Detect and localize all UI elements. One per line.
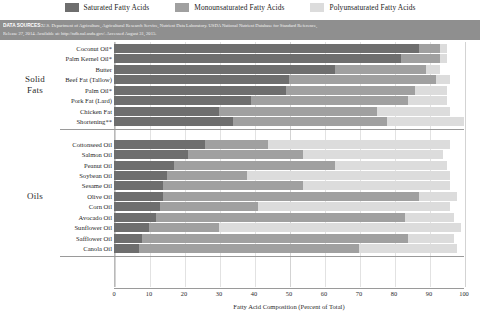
bar-segment-saturated[interactable] (114, 213, 156, 222)
stacked-bar-chart: Coconut Oil*Palm Kernel Oil*ButterBeef F… (0, 42, 480, 315)
bar-segment-saturated[interactable] (114, 181, 163, 190)
stacked-bar[interactable] (114, 65, 464, 74)
stacked-bar[interactable] (114, 86, 464, 95)
stacked-bar[interactable] (114, 150, 464, 159)
bar-segment-polyunsaturated[interactable] (415, 86, 447, 95)
bar-segment-polyunsaturated[interactable] (359, 244, 457, 253)
bar-segment-polyunsaturated[interactable] (408, 96, 447, 105)
bar-segment-monounsaturated[interactable] (289, 75, 436, 84)
bar-row-label: Canola Oil (83, 244, 112, 253)
bar-segment-monounsaturated[interactable] (149, 223, 219, 232)
data-sources-tag: DATA SOURCES: (3, 23, 42, 28)
stacked-bar[interactable] (114, 202, 464, 211)
group-separator (60, 129, 464, 130)
bar-segment-monounsaturated[interactable] (419, 44, 440, 53)
bar-segment-saturated[interactable] (114, 234, 142, 243)
bar-segment-monounsaturated[interactable] (251, 96, 409, 105)
stacked-bar[interactable] (114, 171, 464, 180)
bar-row-label: Palm Kernel Oil* (65, 54, 112, 63)
bar-segment-monounsaturated[interactable] (139, 244, 360, 253)
bar-segment-polyunsaturated[interactable] (303, 150, 443, 159)
bar-segment-saturated[interactable] (114, 117, 233, 126)
group-separator (60, 256, 464, 257)
stacked-bar[interactable] (114, 75, 464, 84)
bar-segment-monounsaturated[interactable] (205, 140, 268, 149)
bar-segment-monounsaturated[interactable] (142, 234, 408, 243)
bar-segment-monounsaturated[interactable] (167, 171, 248, 180)
bar-segment-saturated[interactable] (114, 171, 167, 180)
bar-segment-saturated[interactable] (114, 202, 160, 211)
bar-segment-polyunsaturated[interactable] (377, 107, 451, 116)
x-tick-80: 80 (391, 290, 397, 297)
stacked-bar[interactable] (114, 140, 464, 149)
bar-segment-monounsaturated[interactable] (401, 54, 440, 63)
bar-segment-saturated[interactable] (114, 44, 419, 53)
bar-segment-polyunsaturated[interactable] (258, 202, 451, 211)
bar-segment-polyunsaturated[interactable] (303, 181, 450, 190)
bar-segment-polyunsaturated[interactable] (387, 117, 464, 126)
bar-segment-polyunsaturated[interactable] (419, 192, 458, 201)
bar-segment-saturated[interactable] (114, 107, 219, 116)
bar-segment-polyunsaturated[interactable] (440, 54, 447, 63)
legend-item-monounsaturated: Monounsaturated Fatty Acids (175, 3, 284, 12)
stacked-bar[interactable] (114, 234, 464, 243)
bar-row-label: Coconut Oil* (76, 44, 112, 53)
legend-item-saturated: Saturated Fatty Acids (65, 3, 150, 12)
bar-segment-polyunsaturated[interactable] (408, 234, 454, 243)
bar-segment-polyunsaturated[interactable] (335, 161, 447, 170)
bar-segment-saturated[interactable] (114, 140, 205, 149)
stacked-bar[interactable] (114, 244, 464, 253)
bar-segment-monounsaturated[interactable] (335, 65, 426, 74)
bar-segment-saturated[interactable] (114, 223, 149, 232)
stacked-bar[interactable] (114, 117, 464, 126)
bar-segment-monounsaturated[interactable] (163, 192, 419, 201)
bar-segment-saturated[interactable] (114, 96, 251, 105)
stacked-bar[interactable] (114, 181, 464, 190)
bar-segment-polyunsaturated[interactable] (219, 223, 461, 232)
bar-segment-monounsaturated[interactable] (156, 213, 405, 222)
x-tick-30: 30 (216, 290, 222, 297)
bar-segment-saturated[interactable] (114, 65, 335, 74)
bar-row-label: Cottonseed Oil (72, 140, 112, 149)
bar-segment-saturated[interactable] (114, 244, 139, 253)
bar-segment-monounsaturated[interactable] (233, 117, 387, 126)
legend-item-polyunsaturated: Polyunsaturated Fatty Acids (310, 3, 415, 12)
legend-label-saturated: Saturated Fatty Acids (84, 3, 150, 12)
legend-swatch-polyunsaturated (310, 3, 324, 12)
bar-segment-saturated[interactable] (114, 150, 188, 159)
bar-segment-saturated[interactable] (114, 75, 289, 84)
bar-segment-monounsaturated[interactable] (163, 181, 303, 190)
category-title-oils: Oils (8, 191, 62, 202)
stacked-bar[interactable] (114, 96, 464, 105)
bar-segment-saturated[interactable] (114, 161, 174, 170)
stacked-bar[interactable] (114, 44, 464, 53)
bar-row-label: Chicken Fat (80, 107, 112, 116)
bar-segment-saturated[interactable] (114, 54, 401, 63)
bar-row-label: Palm Oil* (85, 86, 112, 95)
stacked-bar[interactable] (114, 54, 464, 63)
bar-row-label: Pork Fat (Lard) (71, 96, 112, 105)
stacked-bar[interactable] (114, 223, 464, 232)
bar-row-label: Soybean Oil (79, 171, 112, 180)
bar-segment-monounsaturated[interactable] (188, 150, 304, 159)
bar-segment-polyunsaturated[interactable] (436, 75, 450, 84)
stacked-bar[interactable] (114, 192, 464, 201)
bar-segment-polyunsaturated[interactable] (405, 213, 454, 222)
bar-segment-monounsaturated[interactable] (286, 86, 416, 95)
bar-segment-monounsaturated[interactable] (160, 202, 258, 211)
bar-row-label: Olive Oil (87, 192, 112, 201)
bar-segment-saturated[interactable] (114, 86, 286, 95)
chart-legend: Saturated Fatty Acids Monounsaturated Fa… (0, 3, 480, 12)
stacked-bar[interactable] (114, 107, 464, 116)
bar-segment-polyunsaturated[interactable] (247, 171, 450, 180)
bar-segment-polyunsaturated[interactable] (426, 65, 440, 74)
stacked-bar[interactable] (114, 213, 464, 222)
legend-label-polyunsaturated: Polyunsaturated Fatty Acids (329, 3, 415, 12)
bar-segment-polyunsaturated[interactable] (440, 44, 447, 53)
bar-segment-saturated[interactable] (114, 192, 163, 201)
data-sources-line-2: Release 27, 2014. Available at: http://n… (3, 30, 477, 38)
bar-segment-polyunsaturated[interactable] (268, 140, 450, 149)
bar-segment-monounsaturated[interactable] (174, 161, 335, 170)
bar-segment-monounsaturated[interactable] (219, 107, 377, 116)
stacked-bar[interactable] (114, 161, 464, 170)
